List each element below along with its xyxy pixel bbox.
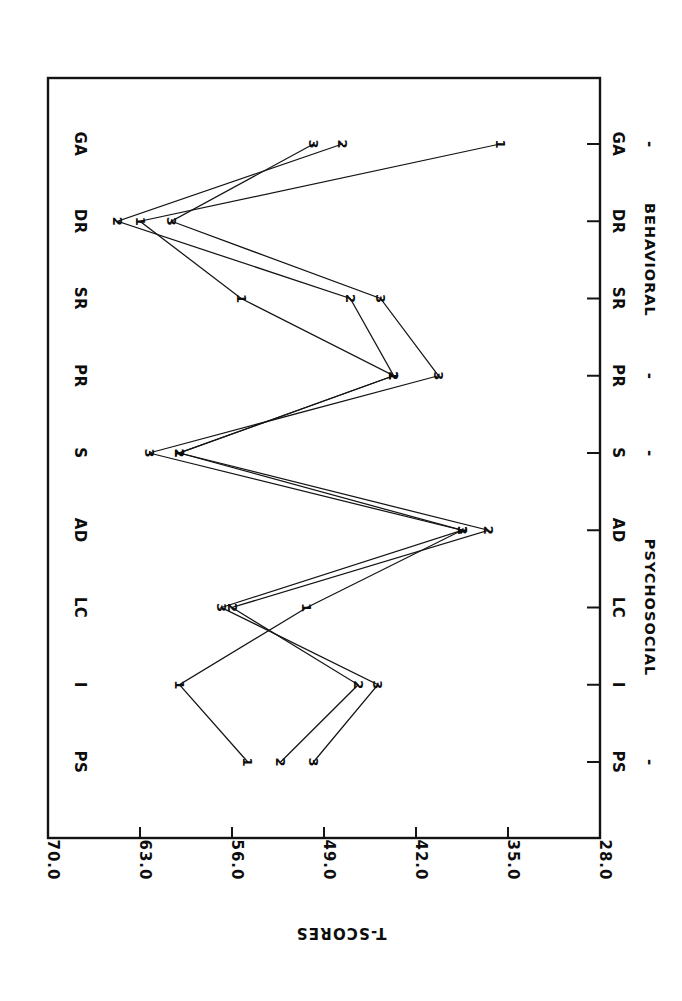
series-line-1	[140, 144, 500, 762]
data-point-marker: 2	[172, 448, 187, 457]
category-label-right-i: I	[609, 682, 627, 688]
category-group-separator: -	[641, 450, 659, 456]
value-axis-title: T-SCORES	[295, 924, 386, 942]
category-label-left-pr: PR	[71, 364, 89, 388]
category-group-separator: -	[641, 373, 659, 379]
data-point-marker: 3	[214, 603, 229, 612]
value-axis-tick-label: 42.0	[412, 839, 430, 880]
category-label-right-s: S	[609, 447, 627, 458]
value-axis-tick-label: 35.0	[504, 839, 522, 880]
category-label-right-dr: DR	[609, 209, 627, 234]
category-label-right-pr: PR	[609, 364, 627, 388]
data-point-marker: 2	[273, 757, 288, 766]
data-point-marker: 3	[142, 448, 157, 457]
data-point-marker: 2	[386, 371, 401, 380]
plot-frame	[48, 78, 600, 838]
category-group-separator: -	[641, 141, 659, 147]
data-point-marker: 1	[234, 294, 249, 303]
category-label-left-dr: DR	[71, 209, 89, 234]
data-point-marker: 3	[373, 294, 388, 303]
data-point-marker: 2	[481, 526, 496, 535]
category-label-right-ga: GA	[609, 132, 627, 157]
category-label-left-ga: GA	[71, 132, 89, 157]
value-axis-tick-label: 63.0	[136, 839, 154, 880]
data-point-marker: 1	[299, 603, 314, 612]
series-markers: 111111111222222222333333333	[110, 139, 507, 766]
value-axis-tick-label: 28.0	[596, 839, 614, 880]
data-point-marker: 2	[110, 217, 125, 226]
category-group-label-psychosocial: PSYCHOSOCIAL	[642, 539, 658, 676]
category-label-left-s: S	[71, 447, 89, 458]
data-point-marker: 3	[306, 139, 321, 148]
data-point-marker: 1	[133, 217, 148, 226]
value-axis-tick-labels: 70.063.056.049.042.035.028.0	[44, 839, 614, 880]
category-labels-left: PSILCADSPRSRDRGA	[71, 132, 89, 774]
data-point-marker: 2	[343, 294, 358, 303]
data-point-marker: 3	[306, 757, 321, 766]
data-point-marker: 3	[455, 526, 470, 535]
value-axis-tick-label: 56.0	[228, 839, 246, 880]
data-point-marker: 3	[431, 371, 446, 380]
value-axis-tick-label: 70.0	[44, 839, 62, 880]
series-line-3	[149, 144, 462, 762]
data-point-marker: 2	[351, 680, 366, 689]
data-point-marker: 1	[172, 680, 187, 689]
category-group-separator: -	[641, 759, 659, 765]
data-point-marker: 1	[240, 757, 255, 766]
category-axis-ticks	[587, 144, 600, 762]
category-label-left-ps: PS	[71, 751, 89, 774]
data-point-marker: 3	[164, 217, 179, 226]
value-axis-title-text: T-SCORES	[295, 924, 386, 942]
category-label-left-lc: LC	[71, 597, 89, 619]
category-label-right-ps: PS	[609, 751, 627, 774]
category-label-right-sr: SR	[609, 287, 627, 310]
category-label-left-i: I	[71, 682, 89, 688]
data-point-marker: 3	[370, 680, 385, 689]
data-point-marker: 2	[335, 139, 350, 148]
chart-svg: 70.063.056.049.042.035.028.0 T-SCORES PS…	[0, 0, 682, 1001]
category-label-right-ad: AD	[609, 518, 627, 543]
category-labels-right: PSILCADSPRSRDRGA	[609, 132, 627, 774]
data-point-marker: 1	[493, 139, 508, 148]
value-axis-ticks	[48, 827, 600, 838]
category-group-labels: PSYCHOSOCIAL--BEHAVIORAL--	[641, 141, 659, 765]
chart-figure: 70.063.056.049.042.035.028.0 T-SCORES PS…	[0, 0, 682, 1001]
category-group-label-behavioral: BEHAVIORAL	[642, 203, 658, 317]
category-label-left-sr: SR	[71, 287, 89, 310]
category-label-right-lc: LC	[609, 597, 627, 619]
category-label-left-ad: AD	[71, 518, 89, 543]
value-axis-tick-label: 49.0	[320, 839, 338, 880]
